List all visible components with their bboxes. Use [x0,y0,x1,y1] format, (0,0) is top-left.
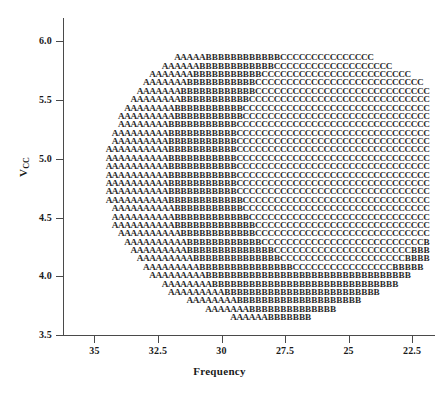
x-tick [349,336,350,343]
data-point-marker: B [304,313,312,322]
y-tick [56,335,63,336]
y-tick-label: 4.0 [18,270,52,281]
x-tick [158,336,159,343]
data-point-marker: B [354,296,362,305]
x-tick-label: 32.5 [138,345,178,356]
data-point-marker: B [404,271,412,280]
x-tick-label: 27.5 [265,345,305,356]
x-tick-label: 30 [202,345,242,356]
data-point-marker: B [416,263,424,272]
y-axis-title-subscript: CC [22,157,31,169]
data-point-marker: B [373,288,381,297]
y-tick [56,41,63,42]
x-tick [412,336,413,343]
y-tick-label: 5.5 [18,94,52,105]
data-point-marker: B [329,305,337,314]
x-axis-title: Frequency [0,365,439,377]
y-tick-label: 4.5 [18,212,52,223]
chart-root: 6.05.55.04.54.03.5 3532.53027.52522.5 VC… [0,0,439,393]
x-axis-spine [63,335,435,336]
y-tick-label: 6.0 [18,35,52,46]
y-axis-title-base: V [17,169,29,177]
plot-area: AAAAABBBBBBBBBBBBCCCCCCCCCCCCCCCAAAAAABB… [64,18,435,335]
x-tick [94,336,95,343]
x-tick [285,336,286,343]
y-tick [56,100,63,101]
x-tick-label: 35 [74,345,114,356]
y-tick [56,218,63,219]
y-axis-title: VCC [17,157,31,177]
y-tick-label: 3.5 [18,329,52,340]
y-tick [56,276,63,277]
x-tick-label: 25 [329,345,369,356]
data-point-marker: B [391,280,399,289]
y-tick [56,159,63,160]
x-tick-label: 22.5 [392,345,432,356]
x-tick [222,336,223,343]
